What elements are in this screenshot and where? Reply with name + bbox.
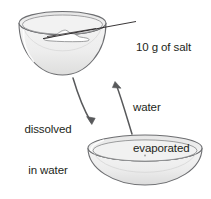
label-evaporated-line-1: water [133, 101, 209, 115]
arrow-water-evaporated [112, 82, 132, 135]
arrow-evaporated-head [112, 82, 121, 89]
arrow-dissolved-head [87, 117, 96, 125]
label-dissolved-line-1: dissolved [17, 123, 79, 137]
top-bowl [19, 12, 106, 76]
label-evaporated-line-2: evaporated [133, 142, 209, 156]
label-salt-amount-text: 10 g of salt [136, 41, 191, 55]
label-water-evaporated: water evaporated [133, 74, 209, 182]
arrow-evaporated-shaft [116, 84, 132, 134]
label-salt-amount: 10 g of salt [136, 14, 191, 82]
salt-evaporation-diagram: 10 g of salt dissolved in water water ev… [0, 0, 211, 199]
label-dissolved-line-2: in water [17, 164, 79, 178]
label-dissolved-in-water: dissolved in water [17, 96, 79, 199]
